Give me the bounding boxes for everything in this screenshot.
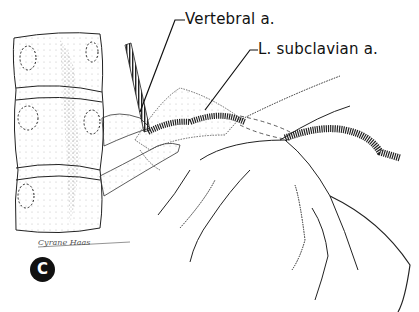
vertebral-artery-label: Vertebral a. [185,10,275,28]
vertebral-column [13,33,103,233]
subclavian-artery-label: L. subclavian a. [258,40,378,58]
anatomical-figure: Vertebral a. L. subclavian a. Cyrane Haa… [0,0,419,312]
panel-letter-badge: C [30,257,55,282]
artist-signature: Cyrane Haas [38,238,90,247]
